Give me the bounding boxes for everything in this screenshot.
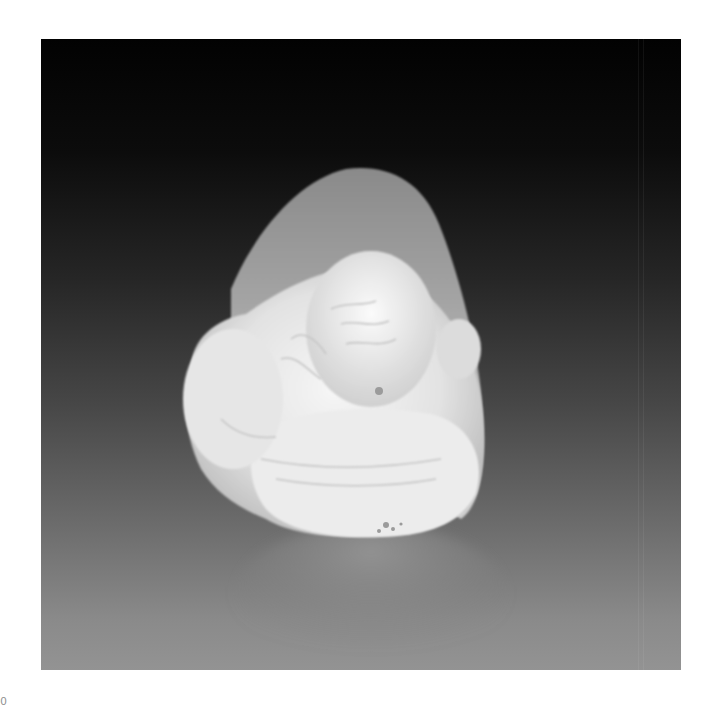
page-number-caption: 00 xyxy=(0,695,7,707)
jade-carving-photo xyxy=(41,39,681,670)
jade-lower-lobe xyxy=(251,409,479,537)
jade-carving-illustration xyxy=(41,39,681,670)
jade-left-limb xyxy=(183,329,283,469)
reflection xyxy=(236,524,506,664)
jade-side-knob xyxy=(437,319,481,379)
jade-head xyxy=(306,251,436,407)
jade-face-detail xyxy=(375,387,383,395)
